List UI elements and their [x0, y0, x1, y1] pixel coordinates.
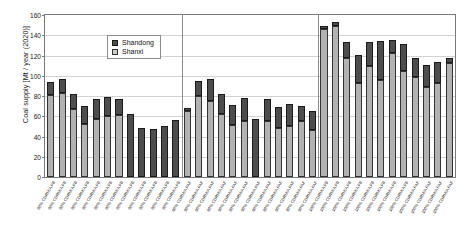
bar-segment-shanxi: [377, 80, 384, 177]
bar-stack: [446, 58, 453, 177]
bar-segment-shandong: [59, 79, 66, 93]
bar-segment-shanxi: [434, 83, 441, 177]
y-tick-label: 40: [34, 133, 41, 140]
bar-stack: [309, 111, 316, 177]
bar-segment-shanxi: [264, 121, 271, 177]
chart-legend: Shandong Shanxi: [107, 35, 161, 59]
bar-segment-shandong: [138, 128, 145, 177]
x-axis-labels: 80% CDRM/A FB80% CDRM/A FB80% CDRM/A FB8…: [44, 180, 456, 250]
bar-segment-shanxi: [320, 29, 327, 177]
bar-segment-shandong: [161, 126, 168, 177]
bar-stack: [150, 129, 157, 177]
bar-segment-shandong: [377, 41, 384, 79]
bar-segment-shandong: [207, 79, 214, 101]
bar-segment-shanxi: [286, 126, 293, 177]
bar-segment-shandong: [355, 55, 362, 83]
shandong-swatch-icon: [112, 40, 118, 46]
bar-segment-shandong: [150, 129, 157, 177]
legend-item-shanxi: Shanxi: [112, 48, 154, 55]
bar-segment-shandong: [127, 114, 134, 177]
bar-stack: [59, 79, 66, 177]
y-tick-label: 160: [30, 12, 41, 19]
bar-stack: [332, 22, 339, 177]
bar-stack: [377, 41, 384, 177]
bar-stack: [389, 40, 396, 177]
bar-segment-shandong: [286, 104, 293, 126]
bar-stack: [161, 126, 168, 177]
bar-stack: [298, 106, 305, 177]
bar-segment-shanxi: [104, 116, 111, 177]
bar-stack: [434, 62, 441, 177]
bar-segment-shanxi: [218, 114, 225, 177]
bar-stack: [355, 55, 362, 178]
bar-stack: [400, 44, 407, 177]
bar-stack: [81, 106, 88, 177]
bar-segment-shanxi: [184, 111, 191, 177]
bar-segment-shanxi: [229, 125, 236, 177]
bar-segment-shanxi: [343, 58, 350, 177]
bar-segment-shandong: [81, 106, 88, 124]
bar-segment-shanxi: [400, 71, 407, 177]
bar-stack: [320, 26, 327, 177]
bar-segment-shandong: [47, 82, 54, 95]
bar-segment-shanxi: [207, 101, 214, 177]
bar-stack: [229, 105, 236, 177]
bar-segment-shandong: [104, 97, 111, 116]
bar-segment-shandong: [93, 99, 100, 119]
bar-segment-shanxi: [195, 96, 202, 177]
bar-stack: [70, 94, 77, 177]
bar-segment-shandong: [309, 111, 316, 130]
bar-stack: [252, 119, 259, 177]
bar-segment-shanxi: [366, 66, 373, 177]
bar-segment-shandong: [241, 98, 248, 121]
y-tick-mark: [42, 177, 45, 178]
bar-segment-shandong: [434, 62, 441, 83]
y-tick-label: 100: [30, 72, 41, 79]
bar-segment-shandong: [264, 99, 271, 121]
shanxi-swatch-icon: [112, 49, 118, 55]
chart-figure: Coal supply [Mt / year (2020)] 020406080…: [0, 0, 472, 250]
bar-stack: [104, 97, 111, 177]
bar-segment-shandong: [195, 81, 202, 96]
bar-segment-shandong: [400, 44, 407, 70]
bar-segment-shandong: [423, 65, 430, 87]
y-tick-label: 0: [37, 174, 41, 181]
bar-segment-shandong: [70, 94, 77, 109]
y-tick-label: 80: [34, 93, 41, 100]
bar-stack: [184, 108, 191, 177]
bar-segment-shanxi: [59, 93, 66, 177]
bar-segment-shandong: [252, 119, 259, 177]
bar-segment-shanxi: [70, 109, 77, 177]
legend-label-shandong: Shandong: [122, 39, 154, 46]
plot-area: 020406080100120140160 Shandong Shanxi: [44, 14, 456, 178]
bar-segment-shandong: [172, 120, 179, 177]
bar-segment-shanxi: [423, 87, 430, 177]
y-tick-label: 20: [34, 153, 41, 160]
bar-segment-shanxi: [389, 53, 396, 177]
bar-segment-shanxi: [309, 130, 316, 177]
bar-stack: [275, 107, 282, 177]
bar-stack: [366, 42, 373, 177]
bar-stack: [115, 99, 122, 177]
bar-stack: [218, 94, 225, 177]
bar-segment-shandong: [218, 94, 225, 114]
bar-stack: [286, 104, 293, 177]
bar-stack: [172, 120, 179, 177]
bar-segment-shandong: [229, 105, 236, 125]
bar-segment-shanxi: [93, 119, 100, 177]
y-tick-label: 140: [30, 32, 41, 39]
bar-segment-shandong: [366, 42, 373, 65]
bar-stack: [47, 82, 54, 177]
y-tick-label: 60: [34, 113, 41, 120]
legend-item-shandong: Shandong: [112, 39, 154, 46]
bar-segment-shandong: [298, 106, 305, 121]
bar-stack: [207, 79, 214, 177]
bar-segment-shanxi: [47, 95, 54, 177]
bar-segment-shanxi: [446, 63, 453, 177]
bar-stack: [423, 65, 430, 177]
bar-segment-shanxi: [412, 77, 419, 177]
bar-stack: [241, 98, 248, 177]
bar-stack: [412, 58, 419, 177]
bar-stack: [127, 114, 134, 177]
bar-stack: [343, 42, 350, 177]
